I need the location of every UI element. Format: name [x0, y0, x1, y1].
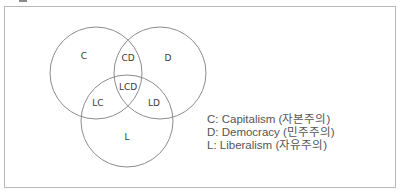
- legend-item-capitalism: C: Capitalism (자본주의): [207, 113, 335, 126]
- region-label-c: C: [81, 51, 87, 61]
- legend: C: Capitalism (자본주의) D: Democracy (민주주의)…: [207, 113, 335, 152]
- region-label-d: D: [165, 53, 172, 63]
- region-label-lcd: LCD: [119, 82, 137, 92]
- region-label-lc: LC: [92, 98, 103, 108]
- legend-item-democracy: D: Democracy (민주주의): [207, 126, 335, 139]
- venn-diagram: C CD D LCD LC LD L: [0, 0, 401, 193]
- region-label-cd: CD: [121, 53, 134, 63]
- region-label-ld: LD: [148, 98, 160, 108]
- region-label-l: L: [124, 132, 129, 142]
- legend-item-liberalism: L: Liberalism (자유주의): [207, 139, 335, 152]
- circle-democracy: [114, 27, 206, 119]
